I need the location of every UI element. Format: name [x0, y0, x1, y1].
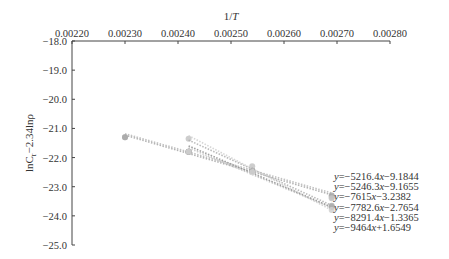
series-4 — [186, 146, 335, 210]
series-6 — [186, 136, 335, 213]
x-tick-label: 0.00260 — [267, 28, 301, 39]
x-tick-label: 0.00230 — [108, 28, 142, 39]
y-tick-label: −20.0 — [43, 94, 67, 105]
data-point — [122, 134, 128, 140]
y-axis-title: lnCr−2.34lnρ — [23, 113, 38, 172]
series-5 — [186, 140, 335, 209]
x-tick-label: 0.00240 — [161, 28, 195, 39]
y-tick-label: −19.0 — [43, 65, 67, 76]
x-tick-label: 0.00250 — [214, 28, 248, 39]
y-tick-label: −18.0 — [43, 36, 67, 47]
y-tick-label: −24.0 — [43, 211, 67, 222]
y-tick-label: −23.0 — [43, 182, 67, 193]
y-tick-label: −25.0 — [43, 240, 67, 251]
x-axis-title: 1/T — [224, 10, 240, 22]
data-point — [249, 169, 255, 175]
y-axis-tick-labels: −18.0−19.0−20.0−21.0−22.0−23.0−24.0−25.0 — [43, 36, 67, 251]
y-tick-label: −22.0 — [43, 153, 67, 164]
equation-6: y=−9464x+1.6549 — [334, 223, 419, 233]
data-point — [186, 149, 192, 155]
x-tick-label: 0.00270 — [320, 28, 354, 39]
x-tick-label: 0.00280 — [373, 28, 407, 39]
trendline — [189, 146, 332, 207]
x-axis-tick-labels: 0.002200.002300.002400.002500.002600.002… — [55, 28, 407, 39]
trendline — [189, 140, 332, 205]
data-series — [122, 134, 335, 213]
y-tick-label: −21.0 — [43, 123, 67, 134]
regression-equations-legend: y=−5216.4x−9.1844 y=−5246.3x−9.1655 y=−7… — [334, 172, 419, 233]
series-2 — [122, 134, 335, 198]
